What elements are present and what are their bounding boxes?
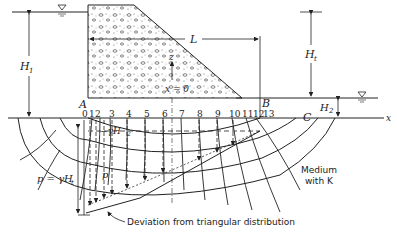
p-gamma-ht-label: p = γH <box>37 173 73 184</box>
medium-label: Medium <box>301 165 337 175</box>
svg-text:11: 11 <box>242 109 253 119</box>
svg-text:t: t <box>314 55 317 63</box>
node-numbers: 0 1 2 3 4 5 6 7 8 9 10 11 12 13 <box>82 109 275 119</box>
upstream-water <box>12 5 88 16</box>
svg-text:2: 2 <box>328 107 334 115</box>
svg-text:3: 3 <box>109 109 115 119</box>
svg-text:2: 2 <box>95 109 101 119</box>
deviation-label: Deviation from triangular distribution <box>127 217 295 227</box>
svg-text:t: t <box>71 179 74 187</box>
svg-text:x: x <box>386 113 391 123</box>
h1-dimension: H 1 <box>19 14 33 116</box>
svg-text:1: 1 <box>29 67 33 75</box>
svg-text:10: 10 <box>229 109 241 119</box>
l-label: L <box>189 33 197 46</box>
svg-text:x = 0: x = 0 <box>165 84 189 94</box>
svg-text:z: z <box>168 52 174 62</box>
flow-net-diagram: H 1 L z x = 0 H t H 2 x <box>0 0 397 234</box>
svg-text:7: 7 <box>179 109 185 119</box>
svg-text:4: 4 <box>126 109 132 119</box>
diagram-canvas: H 1 L z x = 0 H t H 2 x <box>0 0 397 234</box>
svg-text:6: 6 <box>162 109 168 119</box>
p-label: p <box>102 169 109 180</box>
ht-dimension: H t <box>300 12 322 96</box>
svg-text:8: 8 <box>197 109 203 119</box>
water-level-icon <box>358 92 366 97</box>
water-level-icon <box>58 5 66 10</box>
svg-text:1: 1 <box>89 109 95 119</box>
svg-text:9: 9 <box>215 109 221 119</box>
svg-text:5: 5 <box>144 109 150 119</box>
svg-text:13: 13 <box>263 109 275 119</box>
svg-text:H: H <box>319 102 329 113</box>
point-c: C <box>303 111 312 124</box>
svg-text:0: 0 <box>82 109 88 119</box>
gamma-h2-label: −γH <box>100 126 121 136</box>
medium-k-label: with K <box>305 176 334 186</box>
